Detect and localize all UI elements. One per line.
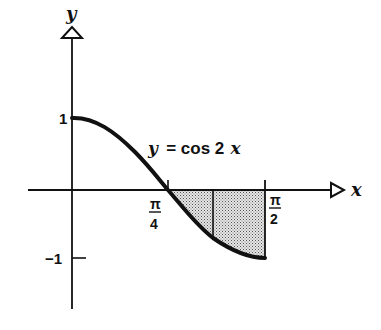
pi-over-2-denominator: 2 (270, 211, 278, 227)
y-tick-label-neg-one: −1 (45, 250, 62, 267)
y-tick-label-one: 1 (59, 110, 67, 127)
chart-canvas: y x 1 −1 y = cos 2 x π 4 π 2 (0, 0, 381, 330)
shaded-region (168, 190, 265, 258)
y-axis-label: y (65, 3, 78, 24)
y-axis-arrow-icon (62, 27, 82, 38)
pi-over-4-numerator: π (150, 196, 161, 212)
function-label: y = cos 2 x (147, 138, 242, 158)
function-label-eq: = cos 2 (166, 139, 224, 158)
x-axis-label: x (350, 179, 362, 200)
x-axis-arrow-icon (331, 183, 344, 197)
pi-over-2-numerator: π (270, 192, 281, 208)
function-label-x: x (230, 138, 242, 158)
pi-over-4-denominator: 4 (150, 216, 158, 232)
function-label-y: y (147, 138, 159, 158)
